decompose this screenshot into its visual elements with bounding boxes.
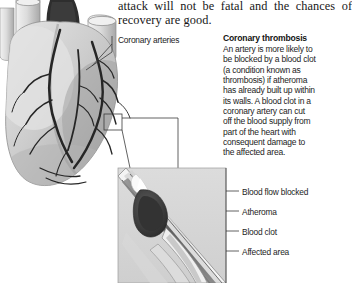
thrombosis-line: off the blood supply from: [223, 116, 349, 126]
body-paragraph-line-1: attack will not be fatal and the chances…: [118, 0, 350, 13]
label-blood-clot: Blood clot: [242, 227, 277, 237]
coronary-thrombosis-body: An artery is more likely to be blocked b…: [223, 44, 349, 158]
thrombosis-line: consequent damage to: [223, 137, 349, 147]
cross-section-leaders: [226, 168, 239, 283]
thrombosis-line: An artery is more likely to: [223, 44, 349, 54]
label-affected-area: Affected area: [242, 247, 289, 257]
thrombosis-line: its walls. A blood clot in a: [223, 96, 349, 106]
thrombosis-line: has already built up within: [223, 85, 349, 95]
artery-cross-section: [118, 168, 226, 283]
thrombosis-line: thrombosis) if atheroma: [223, 75, 349, 85]
coronary-thrombosis-heading: Coronary thrombosis: [223, 33, 346, 43]
thrombosis-line: coronary artery can cut: [223, 106, 349, 116]
thrombosis-line: be blocked by a blood clot: [223, 54, 349, 64]
label-blood-flow-blocked: Blood flow blocked: [242, 187, 308, 197]
body-paragraph-line-2: recovery are good.: [118, 13, 350, 27]
thrombosis-line: the affected area.: [223, 147, 349, 157]
thrombosis-line: (a condition known as: [223, 65, 349, 75]
label-atheroma: Atheroma: [242, 207, 277, 217]
thrombosis-line: part of the heart with: [223, 127, 349, 137]
coronary-arteries-label: Coronary arteries: [118, 35, 179, 45]
body-paragraph: attack will not be fatal and the chances…: [118, 0, 350, 27]
